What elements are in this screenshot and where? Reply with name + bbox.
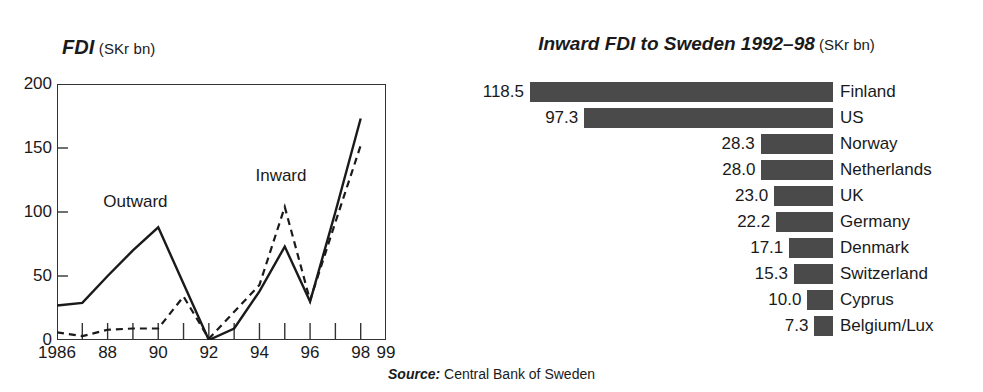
source-note: Source: Central Bank of Sweden [0, 366, 983, 382]
line-chart-title-main: FDI [62, 36, 95, 58]
bar-rect [794, 264, 833, 284]
bar-chart-title-main: Inward FDI to Sweden 1992–98 [538, 33, 815, 54]
bar-category-label: Denmark [840, 238, 909, 258]
bar-value-label: 97.3 [545, 108, 578, 128]
bar-value-label: 22.2 [737, 212, 770, 232]
bar-value-label: 7.3 [785, 316, 809, 336]
x-tick-label: 96 [301, 343, 320, 363]
bar-category-label: UK [840, 186, 864, 206]
y-tick-label: 150 [0, 138, 52, 158]
bar-value-label: 15.3 [755, 264, 788, 284]
bar-row: 15.3Switzerland [430, 261, 983, 287]
bar-chart-rows: 118.5Finland97.3US28.3Norway28.0Netherla… [430, 79, 983, 339]
bar-category-label: Finland [840, 82, 896, 102]
figure-root: FDI (SKr bn) 050100150200 19868890929496… [0, 0, 983, 392]
bar-rect [530, 82, 833, 102]
x-tick-label: 98 [351, 343, 370, 363]
bar-rect [761, 160, 833, 180]
bar-category-label: Norway [840, 134, 898, 154]
y-tick-label: 50 [0, 266, 52, 286]
bar-chart-title: Inward FDI to Sweden 1992–98 (SKr bn) [430, 33, 983, 55]
bar-rect [814, 316, 833, 336]
bar-category-label: Netherlands [840, 160, 932, 180]
bar-row: 17.1Denmark [430, 235, 983, 261]
source-text: Central Bank of Sweden [440, 366, 595, 382]
x-tick-label: 88 [98, 343, 117, 363]
bar-category-label: Germany [840, 212, 910, 232]
x-tick-label: 92 [199, 343, 218, 363]
bar-chart-panel: Inward FDI to Sweden 1992–98 (SKr bn) 11… [430, 0, 983, 370]
bar-value-label: 28.3 [722, 134, 755, 154]
x-tick-label: 1986 [38, 343, 76, 363]
y-axis-labels: 050100150200 [0, 84, 52, 340]
bar-rect [774, 186, 833, 206]
bar-rect [807, 290, 833, 310]
x-tick-label: 94 [250, 343, 269, 363]
bar-chart-title-unit: (SKr bn) [815, 36, 875, 53]
series-annotation-outward: Outward [103, 192, 167, 212]
bar-category-label: Cyprus [840, 290, 894, 310]
bar-category-label: Switzerland [840, 264, 928, 284]
bar-value-label: 118.5 [483, 82, 524, 102]
bar-value-label: 23.0 [735, 186, 768, 206]
line-chart-title: FDI (SKr bn) [62, 36, 155, 59]
bar-row: 28.3Norway [430, 131, 983, 157]
y-tick-label: 200 [0, 74, 52, 94]
bar-row: 7.3Belgium/Lux [430, 313, 983, 339]
x-tick-label: 90 [149, 343, 168, 363]
bar-rect [789, 238, 833, 258]
line-chart-plot [57, 84, 386, 340]
bar-row: 22.2Germany [430, 209, 983, 235]
bar-rect [584, 108, 833, 128]
source-keyword: Source: [388, 366, 440, 382]
bar-rect [776, 212, 833, 232]
y-tick-label: 100 [0, 202, 52, 222]
bar-row: 23.0UK [430, 183, 983, 209]
bar-value-label: 17.1 [750, 238, 783, 258]
bar-row: 28.0Netherlands [430, 157, 983, 183]
line-chart-panel: FDI (SKr bn) 050100150200 19868890929496… [0, 0, 430, 370]
series-annotation-inward: Inward [255, 166, 306, 186]
bar-category-label: US [840, 108, 864, 128]
x-tick-label: 99 [377, 343, 396, 363]
line-series-inward [57, 145, 361, 338]
bar-rect [761, 134, 833, 154]
line-series-outward [57, 119, 361, 340]
bar-category-label: Belgium/Lux [840, 316, 934, 336]
bar-value-label: 28.0 [722, 160, 755, 180]
bar-row: 118.5Finland [430, 79, 983, 105]
bar-row: 97.3US [430, 105, 983, 131]
bar-value-label: 10.0 [768, 290, 801, 310]
line-chart-title-unit: (SKr bn) [95, 40, 156, 57]
bar-row: 10.0Cyprus [430, 287, 983, 313]
